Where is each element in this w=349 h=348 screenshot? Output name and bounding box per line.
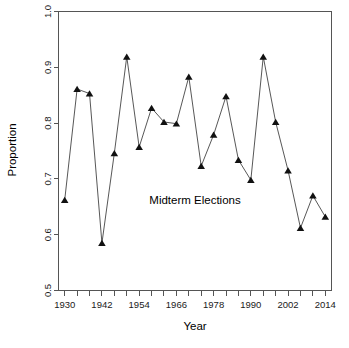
x-tick-label: 1954 — [129, 299, 150, 310]
chart-annotations: Midterm Elections — [149, 194, 241, 206]
y-tick-label: 0.8 — [42, 116, 53, 129]
x-tick-label: 2014 — [315, 299, 336, 310]
y-tick-label: 0.6 — [42, 228, 53, 241]
x-tick-label: 1942 — [91, 299, 112, 310]
x-axis-title: Year — [183, 320, 206, 332]
y-tick-label: 1.0 — [42, 5, 53, 18]
line-chart: 0.50.60.70.80.91.0 193019421954196619781… — [0, 0, 349, 348]
x-tick-label: 1990 — [240, 299, 261, 310]
y-tick-label: 0.5 — [42, 284, 53, 297]
y-axis-title: Proportion — [6, 123, 18, 176]
chart-figure: 0.50.60.70.80.91.0 193019421954196619781… — [0, 0, 349, 348]
x-tick-label: 1966 — [166, 299, 187, 310]
x-tick-label: 1978 — [203, 299, 224, 310]
y-tick-label: 0.7 — [42, 172, 53, 185]
y-tick-label: 0.9 — [42, 61, 53, 74]
chart-annotation-label: Midterm Elections — [149, 194, 241, 206]
x-tick-label: 2002 — [277, 299, 298, 310]
x-tick-label: 1930 — [54, 299, 75, 310]
